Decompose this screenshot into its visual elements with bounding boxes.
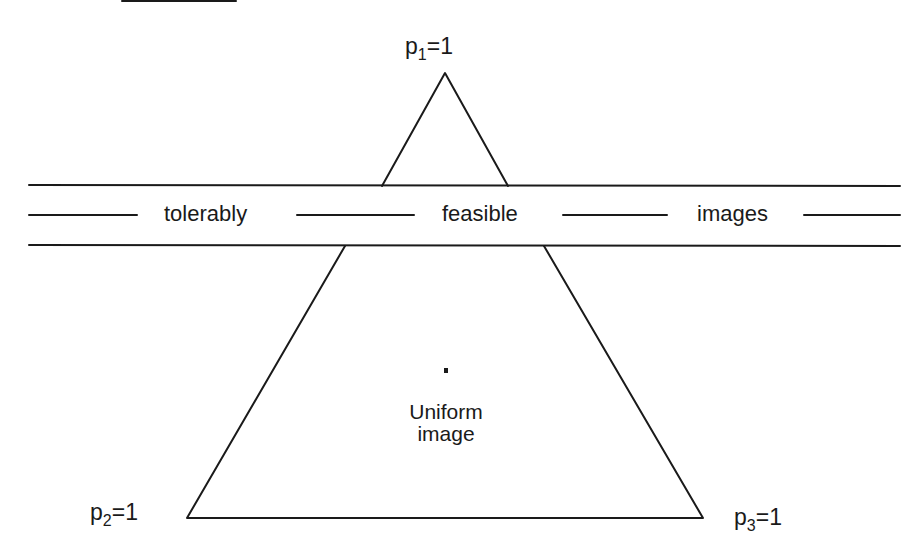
- vertex-label-p2-sub: 2: [103, 512, 112, 529]
- diagram-canvas: [0, 0, 923, 557]
- vertex-label-p3-var: p: [734, 504, 747, 530]
- band-top-line: [29, 185, 900, 186]
- triangle-bottom-section: [187, 246, 703, 518]
- band-label-images: images: [697, 202, 768, 226]
- uniform-image-label-line2: image: [386, 423, 506, 445]
- vertex-label-p1-eq: =1: [427, 33, 453, 59]
- band-label-feasible: feasible: [442, 202, 518, 226]
- vertex-label-p2-eq: =1: [112, 499, 138, 525]
- vertex-label-p2: p2=1: [90, 500, 138, 524]
- vertex-label-p1-var: p: [405, 33, 418, 59]
- vertex-label-p1-sub: 1: [418, 46, 427, 63]
- uniform-image-label: Uniform image: [386, 401, 506, 445]
- vertex-label-p2-var: p: [90, 499, 103, 525]
- uniform-image-label-line1: Uniform: [386, 401, 506, 423]
- vertex-label-p3: p3=1: [734, 505, 782, 529]
- vertex-label-p3-eq: =1: [756, 504, 782, 530]
- band-label-tolerably: tolerably: [164, 202, 247, 226]
- uniform-image-point: [444, 368, 448, 373]
- vertex-label-p3-sub: 3: [747, 517, 756, 534]
- triangle-top-section: [382, 73, 508, 186]
- vertex-label-p1: p1=1: [405, 34, 453, 58]
- band-bottom-line: [29, 245, 900, 246]
